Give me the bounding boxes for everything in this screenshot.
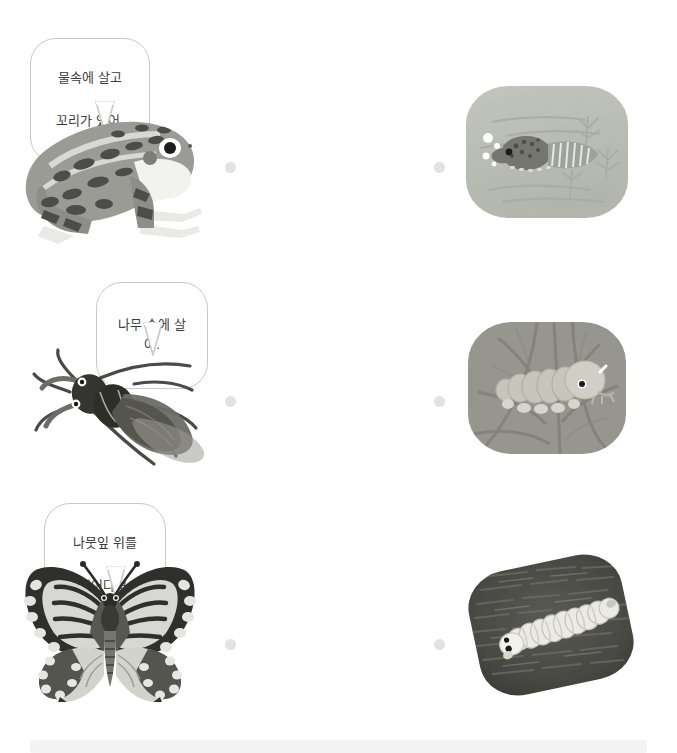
caterpillar-photo[interactable] — [455, 550, 645, 700]
right-dot-3[interactable] — [434, 639, 445, 650]
frog-illustration — [14, 102, 204, 250]
matching-row-beetle: 나무 속에 살아. — [0, 260, 677, 500]
worksheet-page: 물속에 살고 꼬리가 있어. — [0, 0, 677, 753]
right-dot-1[interactable] — [434, 162, 445, 173]
tadpole-photo[interactable] — [466, 86, 628, 218]
bubble-line-1: 나뭇잎 위를 — [60, 533, 150, 553]
swallowtail-butterfly-illustration — [10, 557, 210, 702]
stag-beetle-illustration — [14, 332, 214, 472]
beetle-larva-photo[interactable] — [468, 322, 626, 454]
left-dot-2[interactable] — [225, 396, 236, 407]
right-dot-2[interactable] — [434, 396, 445, 407]
bottom-divider-bar — [30, 740, 647, 753]
bubble-line-1: 물속에 살고 — [46, 68, 134, 88]
matching-row-butterfly: 나뭇잎 위를 기어다녀. — [0, 487, 677, 727]
matching-row-frog: 물속에 살고 꼬리가 있어. — [0, 10, 677, 250]
left-dot-1[interactable] — [225, 162, 236, 173]
left-dot-3[interactable] — [225, 639, 236, 650]
